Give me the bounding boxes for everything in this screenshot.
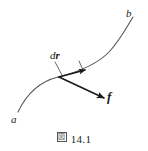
- figure-container: a b dr f 図14.1: [0, 0, 148, 151]
- dr-leader-line-left: [55, 62, 62, 75]
- curve-end-label-b: b: [126, 8, 132, 19]
- displacement-vector-label: dr: [50, 50, 60, 61]
- figure-drawing-canvas: [0, 0, 148, 151]
- dr-label-r: r: [56, 49, 60, 61]
- dr-leader-line-right: [79, 61, 83, 70]
- figure-number: 14.1: [71, 133, 91, 145]
- figure-caption: 図14.1: [0, 132, 148, 145]
- force-vector-label: f: [107, 90, 111, 103]
- figure-mark-glyph: 図: [57, 132, 67, 142]
- force-vector-arrow: [59, 77, 104, 98]
- trajectory-curve: [18, 17, 133, 112]
- curve-start-label-a: a: [11, 114, 17, 125]
- displacement-vector-arrow: [59, 70, 85, 77]
